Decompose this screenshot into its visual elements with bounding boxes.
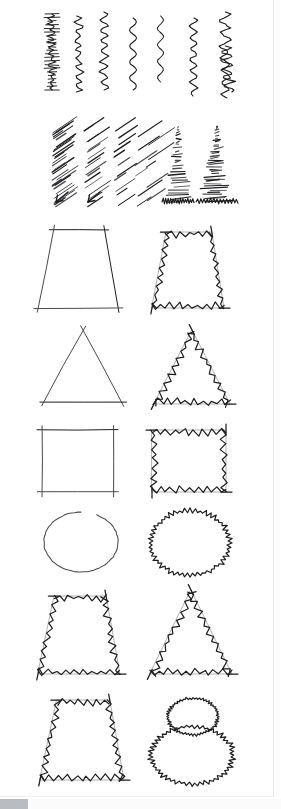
sketch-figure-canvas (0, 0, 281, 809)
squiggle-stroke-1-tick (44, 68, 60, 69)
square-smooth-edge (37, 430, 118, 431)
horizontal-scrollbar-track[interactable] (28, 799, 281, 809)
figure-page (0, 0, 281, 809)
squiggle-stroke-1-tick (48, 35, 56, 36)
hatch-triangle-2-hatch (216, 135, 219, 136)
hatch-triangle-1-hatch (171, 156, 181, 157)
hatch-triangle-1-hatch (166, 194, 188, 195)
squiggle-stroke-1-tick (48, 75, 55, 76)
horizontal-scrollbar-thumb[interactable] (0, 799, 28, 809)
hatch-triangle-1-hatch (178, 126, 179, 128)
hatch-triangle-2-hatch (217, 126, 218, 128)
squiggle-stroke-1-tick (48, 42, 56, 43)
page-bottom-rule (0, 796, 275, 797)
hatch-triangle-1-hatch (173, 168, 182, 169)
squiggle-stroke-1-tick (48, 79, 56, 80)
hatch-triangle-1-hatch (176, 139, 181, 140)
hatch-triangle-2-hatch (205, 185, 229, 186)
squiggle-stroke-1-tick (48, 47, 56, 48)
squiggle-stroke-1-tick (45, 60, 60, 61)
hatch-triangle-2-hatch (215, 141, 218, 142)
page-right-rule (273, 0, 274, 796)
